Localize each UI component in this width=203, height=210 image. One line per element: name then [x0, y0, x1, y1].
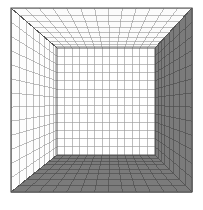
perspective-box-figure: One-point perspective wireframe box — [0, 0, 203, 210]
drawing-canvas: One-point perspective wireframe box — [0, 0, 203, 210]
back-wall-fill — [57, 48, 155, 155]
